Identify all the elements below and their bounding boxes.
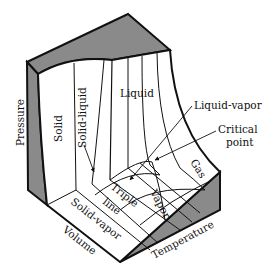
label-solid-liquid: Solid-liquid xyxy=(76,87,88,148)
label-liquid-vapor: Liquid-vapor xyxy=(194,99,263,111)
axis-pressure: Pressure xyxy=(14,99,26,146)
label-critical: Critical xyxy=(218,123,258,135)
label-solid: Solid xyxy=(52,115,64,142)
label-liquid: Liquid xyxy=(120,87,154,99)
label-point: point xyxy=(226,136,254,148)
pvt-surface-diagram: Solid Solid-liquid Liquid Gas Vapor Trip… xyxy=(0,0,272,279)
